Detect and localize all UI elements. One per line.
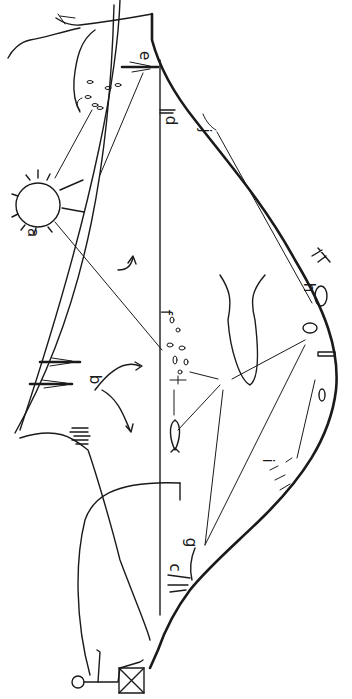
label-i: i (260, 458, 275, 462)
arrow-small-fish-to-fish (178, 385, 220, 430)
label-j: j (197, 128, 212, 132)
label-a: a (25, 228, 40, 237)
littoral-plant-g-icon (191, 548, 195, 580)
arrow-plankton-to-fish (190, 372, 218, 379)
arrow-sun-to-plankton (55, 222, 162, 350)
label-b: b (87, 375, 102, 385)
arrow-h-to-fish (232, 340, 305, 379)
runoff-curve-1 (20, 0, 120, 430)
sun-icon (12, 170, 84, 234)
tree-trunk (56, 14, 152, 25)
plankton-cluster-icon (167, 317, 188, 384)
angler-icon (72, 650, 144, 693)
label-e: e (137, 51, 152, 60)
tree-branch (8, 28, 80, 58)
label-h: h (301, 283, 316, 293)
label-g: g (183, 538, 198, 548)
label-c: c (167, 563, 182, 571)
large-fish-icon (220, 275, 265, 385)
arrow-j-to-h (217, 132, 312, 303)
shore-slope (20, 433, 150, 640)
runoff-arrow-side (102, 390, 130, 430)
benthic-invertebrates-icon (303, 248, 335, 401)
arrow-g-to-fish (205, 390, 223, 545)
tree-twig (58, 14, 75, 24)
arrow-i-to-bottom (297, 380, 315, 458)
tree-branch-2 (74, 30, 95, 112)
falling-leaves-icon (77, 81, 121, 111)
arrow-leaves-to-plankton (55, 110, 92, 178)
label-f: f (158, 310, 173, 315)
food-web-diagram: a b c d e f g h i j (0, 0, 352, 699)
surface-marker-d (160, 110, 175, 113)
bottom-detritus-icon (270, 458, 292, 490)
fishing-line (78, 483, 180, 675)
label-d: d (163, 116, 178, 126)
diagram-drawing (0, 0, 352, 699)
shore-grass-icon (70, 428, 90, 444)
submerged-plant-c-icon (168, 575, 190, 592)
small-fish-icon (170, 420, 179, 452)
runoff-curve-2 (15, 5, 114, 433)
